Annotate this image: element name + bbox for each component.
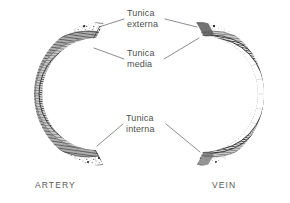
- leader-media-vein: [164, 38, 199, 59]
- histology-figure: Tunica externa Tunica media Tunica inter…: [0, 0, 290, 203]
- leader-media-artery: [94, 48, 124, 59]
- label-tunica-media-line2: media: [127, 59, 155, 70]
- leader-externa-artery: [99, 19, 124, 27]
- artery-illustration: [18, 22, 158, 167]
- leader-interna-artery: [97, 124, 123, 146]
- vein-tunica-interna: [156, 35, 268, 153]
- vein-tunica-media: [152, 31, 272, 157]
- label-tunica-externa-line2: externa: [127, 19, 158, 30]
- label-tunica-interna-line1: Tunica: [126, 113, 155, 124]
- label-tunica-interna-line2: interna: [126, 124, 155, 135]
- label-tunica-interna: Tunica interna: [126, 113, 155, 134]
- label-tunica-externa-line1: Tunica: [127, 8, 158, 19]
- label-vein: VEIN: [212, 180, 236, 190]
- vein-illustration: [144, 19, 282, 168]
- leader-externa-vein: [165, 19, 197, 27]
- artery-cut-edges: [92, 26, 102, 162]
- leader-interna-vein: [166, 124, 200, 152]
- vessel-illustration: [0, 0, 290, 203]
- label-tunica-externa: Tunica externa: [127, 8, 158, 29]
- label-tunica-media-line1: Tunica: [127, 48, 155, 59]
- label-artery: ARTERY: [35, 180, 76, 190]
- label-tunica-media: Tunica media: [127, 48, 155, 69]
